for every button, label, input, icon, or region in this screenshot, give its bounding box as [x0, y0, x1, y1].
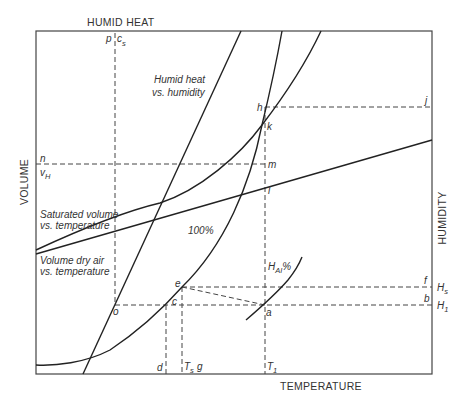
point-label-j: j [423, 95, 428, 106]
point-label-d: d [157, 362, 163, 373]
point-label-cs: cs [117, 33, 126, 48]
axis-label-volume: VOLUME [18, 159, 30, 205]
label-relative-humidity: HAI% [268, 261, 291, 275]
point-label-p: p [105, 33, 112, 44]
point-label-f: f [424, 275, 428, 286]
point-label-e: e [175, 278, 181, 289]
axis-label-humidity: HUMIDITY [436, 191, 448, 244]
point-label-T1: T1 [267, 361, 277, 375]
label-dry-vol-1: Volume dry air [40, 255, 105, 266]
label-100-percent: 100% [188, 225, 214, 236]
dashed-line-e-a [182, 287, 265, 305]
label-dry-vol-2: vs. temperature [40, 266, 110, 277]
point-label-H1: H1 [437, 300, 448, 314]
label-humid-heat-1: Humid heat [154, 74, 206, 85]
axis-label-humid-heat: HUMID HEAT [87, 16, 155, 28]
point-label-k: k [267, 121, 273, 132]
point-label-a: a [266, 307, 272, 318]
label-humid-heat-2: vs. humidity [152, 87, 206, 98]
point-label-n: n [40, 153, 46, 164]
humidity-chart: HUMID HEAT VOLUME HUMIDITY TEMPERATURE H… [0, 0, 469, 404]
point-label-vH: vH [40, 167, 51, 181]
point-label-m: m [268, 159, 276, 170]
label-sat-vol-2: vs. temperature [40, 220, 110, 231]
point-label-o: o [113, 306, 119, 317]
axis-label-temperature: TEMPERATURE [280, 380, 362, 392]
point-label-b: b [424, 293, 430, 304]
point-label-h: h [257, 102, 263, 113]
point-label-c: c [172, 296, 177, 307]
label-sat-vol-1: Saturated volume [40, 209, 119, 220]
point-label-Ts: Ts [184, 361, 194, 375]
chart-frame [36, 31, 432, 374]
point-label-g: g [197, 361, 203, 372]
point-label-Hs: Hs [437, 282, 448, 296]
